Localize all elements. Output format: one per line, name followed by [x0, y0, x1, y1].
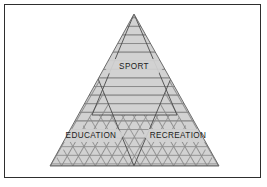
venn-triangle-diagram: SPORT EDUCATION RECREATION — [0, 0, 267, 187]
figure-canvas: SPORT EDUCATION RECREATION — [0, 0, 267, 187]
recreation-label: RECREATION — [150, 131, 207, 140]
education-label: EDUCATION — [66, 131, 117, 140]
sport-label: SPORT — [119, 62, 149, 71]
diagram-body — [50, 14, 219, 166]
